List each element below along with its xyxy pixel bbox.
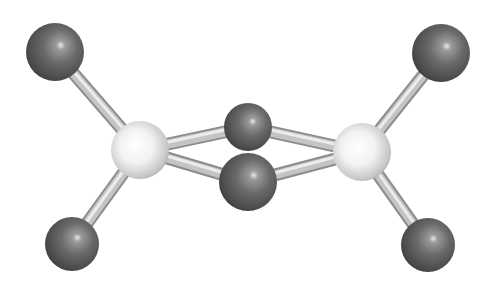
atom-terminal-bottom-right	[401, 218, 455, 272]
atom-terminal-top-right	[412, 24, 470, 82]
molecule-model	[0, 0, 491, 290]
atom-bridge-top	[224, 103, 272, 151]
atom-bridge-bottom	[219, 153, 277, 211]
atom-center-right	[333, 123, 391, 181]
atoms-layer	[26, 23, 470, 272]
atom-center-left	[111, 121, 169, 179]
atom-terminal-top-left	[26, 23, 84, 81]
atom-terminal-bottom-left	[45, 217, 99, 271]
